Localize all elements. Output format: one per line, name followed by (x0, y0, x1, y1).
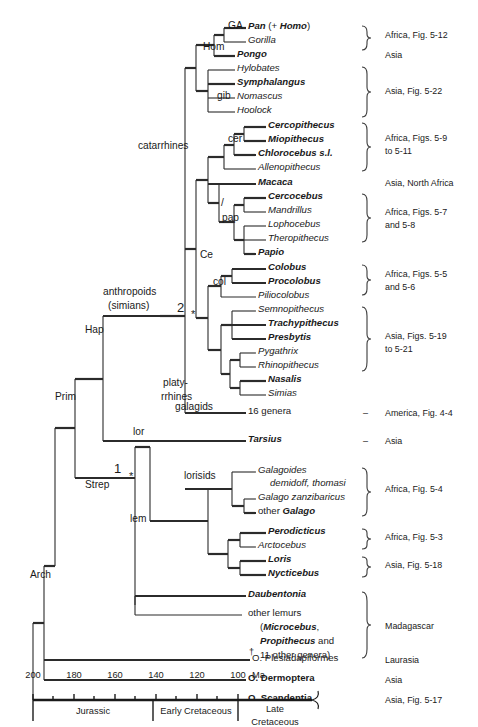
region-brackets (362, 26, 371, 658)
era-label-late-cretaceous-1: Late (266, 704, 284, 714)
era-label-jurassic: Jurassic (76, 706, 110, 716)
bracket-papionins (362, 194, 371, 242)
bracket-lorisines-african (362, 529, 371, 549)
axis-tick-140: 140 (148, 670, 164, 680)
bracket-gibbons (362, 67, 371, 117)
bracket-cercopithecins (362, 123, 371, 171)
clade-hominoids (185, 28, 246, 148)
bracket-lorisines-asian (362, 557, 371, 577)
bracket-hominines (362, 26, 371, 50)
clade-lorisids (208, 533, 266, 575)
bracket-asian-colobines (362, 307, 371, 371)
axis-tick-120: 120 (189, 670, 205, 680)
axis-break-squiggle (312, 691, 318, 709)
clade-colobines (196, 269, 266, 395)
bracket-african-colobines (362, 265, 371, 295)
axis-tick-200: 200 (25, 670, 41, 680)
timescale: 200180160140120100MaJurassicEarly Cretac… (0, 630, 478, 721)
era-label-late-cretaceous-2: Cretaceous (251, 717, 299, 727)
axis-tick-160: 160 (107, 670, 123, 680)
axis-tick-100: 100 (230, 670, 246, 680)
axis-unit-label: Ma (252, 670, 265, 680)
era-label-early-cretaceous: Early Cretaceous (160, 706, 231, 716)
axis-tick-180: 180 (66, 670, 82, 680)
clade-cercopithecines (196, 127, 266, 254)
bracket-galagids (362, 468, 371, 516)
clade-galagids (185, 472, 256, 513)
